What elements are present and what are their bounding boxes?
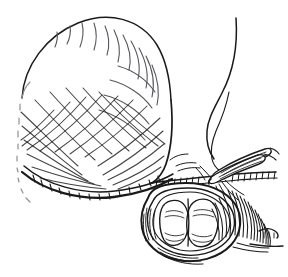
surgical-illustration-figure: Surgical line drawing: sac with mesh ove… bbox=[0, 0, 288, 277]
lumen-lobe-left bbox=[160, 200, 189, 245]
lumen-lobe-right bbox=[187, 199, 218, 247]
illustration-root: Surgical line drawing: sac with mesh ove… bbox=[0, 0, 288, 277]
